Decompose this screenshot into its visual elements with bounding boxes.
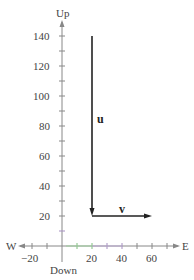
y-tick-label-100: 100 <box>33 91 50 102</box>
vector-u-label: u <box>97 112 104 127</box>
x-tick-label-neg20: −20 <box>21 253 38 264</box>
vector-diagram <box>0 0 194 280</box>
y-tick-label-120: 120 <box>33 61 50 72</box>
vector-u-arrowhead-icon <box>90 208 95 216</box>
x-tick-label-60: 60 <box>146 253 157 264</box>
east-arrow-icon <box>173 244 180 249</box>
y-tick-label-80: 80 <box>39 121 50 132</box>
y-tick-label-140: 140 <box>33 31 50 42</box>
up-label: Up <box>56 8 69 19</box>
west-arrow-icon <box>18 244 25 249</box>
y-tick-label-40: 40 <box>39 181 50 192</box>
up-arrow-icon <box>60 20 65 27</box>
vector-v-label: v <box>119 202 125 217</box>
west-label: W <box>6 241 16 252</box>
x-tick-label-20: 20 <box>86 253 97 264</box>
east-label: E <box>182 241 189 252</box>
y-tick-label-60: 60 <box>39 151 50 162</box>
vector-v-arrowhead-icon <box>144 214 152 219</box>
y-tick-label-20: 20 <box>39 211 50 222</box>
x-tick-label-40: 40 <box>116 253 127 264</box>
down-label: Down <box>50 265 77 276</box>
